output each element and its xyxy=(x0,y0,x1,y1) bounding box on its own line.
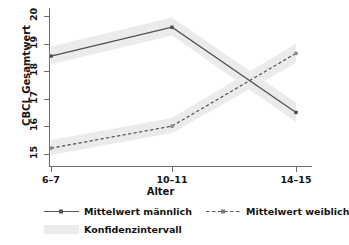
solid-line-marker-icon xyxy=(44,206,79,217)
data-point-marker xyxy=(50,146,53,149)
x-tick-label: 6–7 xyxy=(42,174,60,185)
x-tick-mark xyxy=(51,167,52,172)
y-tick-mark xyxy=(44,99,49,100)
x-axis-line xyxy=(49,166,312,167)
y-axis-title: CBCL Gesamtwert xyxy=(21,21,32,131)
data-point-marker xyxy=(170,124,173,127)
legend-item-male[interactable]: Mittelwert männlich xyxy=(44,206,192,217)
x-tick-mark xyxy=(296,167,297,172)
legend-label-ci: Konfidenzintervall xyxy=(84,224,182,235)
x-tick-label: 10–11 xyxy=(156,174,187,185)
confidence-band-swatch-icon xyxy=(44,225,79,234)
confidence-band-group xyxy=(51,18,296,155)
legend-label-male: Mittelwert männlich xyxy=(84,206,192,217)
y-tick-mark xyxy=(44,71,49,72)
data-point-marker xyxy=(170,26,173,29)
legend-label-female: Mittelwert weiblich xyxy=(246,206,349,217)
y-tick-label: 15 xyxy=(28,142,39,162)
chart-canvas xyxy=(50,8,312,166)
x-axis-title: Alter xyxy=(0,186,321,197)
legend-row-1: Mittelwert männlich Mittelwert weiblich xyxy=(0,202,321,220)
y-tick-mark xyxy=(44,16,49,17)
y-tick-mark xyxy=(44,44,49,45)
legend-item-ci[interactable]: Konfidenzintervall xyxy=(44,224,182,235)
y-axis-line xyxy=(49,8,50,167)
x-tick-mark xyxy=(172,167,173,172)
y-tick-mark xyxy=(44,154,49,155)
x-tick-label: 14–15 xyxy=(280,174,311,185)
y-tick-mark xyxy=(44,126,49,127)
confidence-band-female xyxy=(51,44,296,155)
data-point-marker xyxy=(50,54,53,57)
dashed-line-marker-icon xyxy=(206,206,241,217)
data-point-marker xyxy=(294,111,297,114)
legend-row-2: Konfidenzintervall xyxy=(0,220,321,238)
data-point-marker xyxy=(294,52,297,55)
plot-area xyxy=(50,8,312,166)
chart-legend: Mittelwert männlich Mittelwert weiblich … xyxy=(0,202,321,245)
legend-item-female[interactable]: Mittelwert weiblich xyxy=(206,206,349,217)
